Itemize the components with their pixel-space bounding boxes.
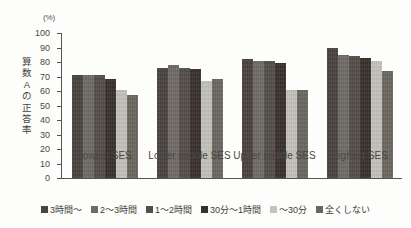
bar bbox=[72, 75, 83, 178]
legend-item[interactable]: 30分～1時間 bbox=[201, 203, 261, 216]
y-axis-title-char: 数 bbox=[19, 67, 35, 78]
y-axis-tick-label: 100 bbox=[35, 28, 50, 38]
legend-label: ～30分 bbox=[279, 203, 307, 216]
bar bbox=[157, 68, 168, 178]
bar bbox=[190, 69, 201, 178]
chart-figure: (%) 算数Aの正答率 1009080706050403020100 Lowes… bbox=[0, 0, 411, 228]
x-axis-category-label: Highest SES bbox=[331, 150, 388, 161]
y-axis-tick: 0 bbox=[57, 178, 62, 179]
y-axis-title-char: 率 bbox=[19, 124, 35, 135]
legend-label: 30分～1時間 bbox=[210, 203, 261, 216]
y-axis-title-char: の bbox=[19, 90, 35, 101]
legend-item[interactable]: 3時間～ bbox=[41, 203, 82, 216]
bar bbox=[297, 90, 308, 178]
legend-swatch-icon bbox=[201, 206, 208, 213]
bar bbox=[201, 81, 212, 178]
y-axis-tick-label: 40 bbox=[40, 115, 50, 125]
y-axis-tick-label: 80 bbox=[40, 57, 50, 67]
legend-label: 1～2時間 bbox=[155, 203, 192, 216]
bar bbox=[286, 90, 297, 178]
legend-swatch-icon bbox=[270, 206, 277, 213]
y-axis-tick-label: 60 bbox=[40, 86, 50, 96]
legend-item[interactable]: ～30分 bbox=[270, 203, 307, 216]
legend-label: 3時間～ bbox=[50, 203, 82, 216]
bar bbox=[83, 75, 94, 178]
legend-swatch-icon bbox=[316, 206, 323, 213]
legend-item[interactable]: 全くしない bbox=[316, 203, 370, 216]
y-axis-tick-label: 50 bbox=[40, 101, 50, 111]
bar bbox=[168, 65, 179, 178]
y-axis-tick-label: 10 bbox=[40, 159, 50, 169]
bar bbox=[116, 90, 127, 178]
y-axis-tick-label: 0 bbox=[45, 173, 50, 183]
legend-item[interactable]: 2～3時間 bbox=[91, 203, 137, 216]
bar bbox=[212, 79, 223, 178]
bar bbox=[105, 79, 116, 178]
y-axis-title-char: 答 bbox=[19, 113, 35, 124]
y-axis-tick-label: 30 bbox=[40, 130, 50, 140]
y-axis-tick-label: 70 bbox=[40, 72, 50, 82]
legend-swatch-icon bbox=[146, 206, 153, 213]
y-axis-title-char: 正 bbox=[19, 102, 35, 113]
legend-swatch-icon bbox=[91, 206, 98, 213]
x-axis-category-label: Lowest SES bbox=[77, 150, 131, 161]
y-axis-tick-label: 20 bbox=[40, 144, 50, 154]
bar bbox=[382, 71, 393, 178]
y-axis-title: 算数Aの正答率 bbox=[19, 56, 35, 136]
x-axis-category-label: Upper middle SES bbox=[233, 150, 315, 161]
bar bbox=[179, 68, 190, 178]
bar bbox=[127, 95, 138, 178]
x-axis-category-label: Lower middle SES bbox=[148, 150, 230, 161]
legend-swatch-icon bbox=[41, 206, 48, 213]
legend-label: 全くしない bbox=[325, 203, 370, 216]
x-axis-line bbox=[61, 178, 402, 179]
y-axis-unit-label: (%) bbox=[43, 13, 55, 22]
y-axis-title-char: A bbox=[19, 79, 35, 90]
legend-label: 2～3時間 bbox=[100, 203, 137, 216]
chart-legend: 3時間～2～3時間1～2時間30分～1時間～30分全くしない bbox=[0, 203, 411, 216]
bar bbox=[94, 75, 105, 178]
legend-item[interactable]: 1～2時間 bbox=[146, 203, 192, 216]
y-axis-title-char: 算 bbox=[19, 56, 35, 67]
y-axis-tick-label: 90 bbox=[40, 43, 50, 53]
